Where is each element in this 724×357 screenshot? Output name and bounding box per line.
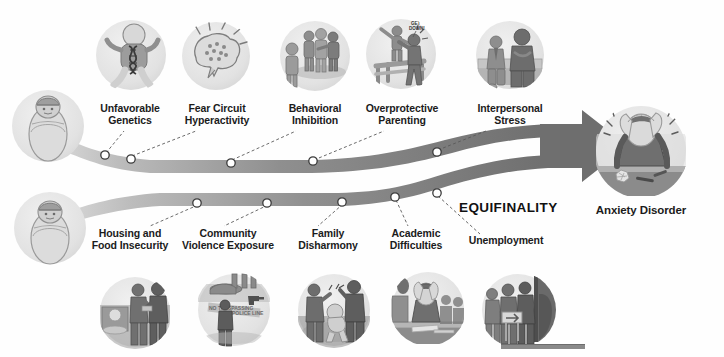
- student-stress-desk-icon: [390, 270, 466, 346]
- interpersonal-stress-bench-icon: [474, 19, 546, 91]
- footer-scale-bar: [501, 344, 585, 349]
- diagram-canvas: Unfavorable Genetics Fear Circuit Hypera…: [0, 0, 724, 357]
- unemployment-line-icon: [480, 272, 556, 348]
- factor-label-interpersonal-stress: Interpersonal Stress: [464, 103, 556, 126]
- factor-label-unfavorable-genetics: Unfavorable Genetics: [82, 103, 178, 126]
- family-conflict-icon: [296, 272, 372, 348]
- origin-bottom-icon-swaddled-infant: [12, 190, 88, 266]
- factor-label-fear-circuit-hyperactivity: Fear Circuit Hyperactivity: [170, 103, 264, 126]
- overprotective-parent-icon: GET DOWN!: [364, 17, 438, 91]
- food-bank-line-icon: [98, 275, 172, 349]
- distressed-person-head-in-hands-icon: [594, 104, 688, 198]
- community-violence-icon: NO TRESPASSING POLICE LINE: [196, 272, 272, 348]
- factor-label-family-disharmony: Family Disharmony: [282, 228, 374, 251]
- infant-dna-genetics-icon: [94, 18, 168, 92]
- svg-text:DOWN!: DOWN!: [409, 26, 425, 31]
- shy-child-peer-group-icon: [278, 19, 352, 93]
- outcome-label-anxiety-disorder: Anxiety Disorder: [588, 204, 694, 216]
- factor-label-housing-and-food-insecurity: Housing and Food Insecurity: [78, 228, 182, 251]
- origin-top-icon-swaddled-infant: [10, 88, 86, 164]
- factor-label-community-violence-exposure: Community Violence Exposure: [170, 228, 286, 251]
- factor-label-unemployment: Unemployment: [456, 235, 556, 247]
- equifinality-label: EQUIFINALITY: [459, 200, 558, 215]
- svg-text:POLICE LINE: POLICE LINE: [232, 310, 264, 316]
- factor-label-behavioral-inhibition: Behavioral Inhibition: [268, 103, 362, 126]
- factor-label-academic-difficulties: Academic Difficulties: [372, 228, 460, 251]
- brain-fear-circuit-icon: [180, 20, 252, 92]
- factor-label-overprotective-parenting: Overprotective Parenting: [352, 103, 452, 126]
